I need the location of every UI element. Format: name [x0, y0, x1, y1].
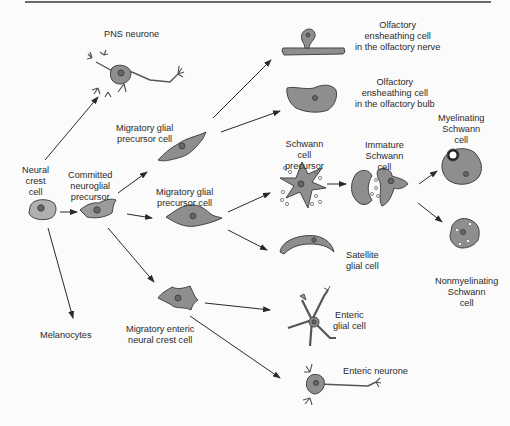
label-myelinating-schwann: Myelinating Schwann cell	[438, 113, 484, 146]
pns-neurone-icon	[87, 50, 184, 97]
arrow-enteric-to-glial	[205, 303, 270, 310]
arrow-committed-to-glial1	[118, 172, 147, 193]
arrow-committed-to-glial2	[127, 214, 152, 218]
arrow-crest-to-pns	[45, 97, 98, 160]
nonmyelinating-schwann-cell-icon	[450, 219, 479, 248]
arrow-glial1-to-olfnerve	[213, 60, 271, 118]
label-enteric-glial: Enteric glial cell	[333, 310, 366, 332]
migratory-enteric-crest-cell-icon	[158, 286, 198, 310]
arrow-enteric-to-neurone	[190, 316, 280, 378]
label-schwann-precursor: Schwann cell precursor	[285, 139, 324, 172]
enteric-glial-cell-icon	[288, 286, 336, 346]
satellite-glial-cell-icon	[280, 236, 334, 254]
label-olfactory-bulb: Olfactory ensheathing cell in the olfact…	[355, 77, 435, 110]
label-satellite-glial: Satellite glial cell	[346, 250, 379, 272]
label-migratory-enteric: Migratory enteric neural crest cell	[126, 324, 194, 346]
arrow-immature-to-myel	[419, 171, 437, 184]
label-migratory-glial-2: Migratory glial precursor cell	[156, 187, 213, 209]
arrow-glial2-to-satellite	[228, 230, 267, 250]
arrow-glial1-to-olfbulb	[221, 111, 280, 132]
myelinating-schwann-cell-icon	[442, 149, 482, 185]
arrow-immature-to-nonmyel	[418, 203, 442, 222]
lineage-diagram	[0, 0, 510, 426]
label-committed-precursor: Committed neuroglial precursor	[68, 170, 112, 203]
immature-schwann-cell-icon	[352, 168, 409, 206]
arrow-glial2-to-schwannprec	[228, 193, 270, 212]
arrow-committed-to-enteric	[108, 228, 154, 282]
neural-crest-cell-icon	[29, 200, 56, 220]
label-nonmyelinating-schwann: Nonmyelinating Schwann cell	[435, 276, 498, 309]
label-melanocytes: Melanocytes	[40, 330, 92, 341]
label-pns-neurone: PNS neurone	[104, 29, 159, 40]
arrow-crest-to-melanocytes	[48, 228, 73, 318]
label-migratory-glial-1: Migratory glial precursor cell	[116, 123, 173, 145]
olfactory-nerve-ensheathing-cell-icon	[282, 29, 345, 55]
olfactory-bulb-ensheathing-cell-icon	[287, 85, 337, 112]
label-olfactory-nerve: Olfactory ensheathing cell in the olfact…	[355, 20, 440, 53]
label-enteric-neurone: Enteric neurone	[343, 366, 408, 377]
label-immature-schwann: Immature Schwann cell	[365, 140, 404, 173]
label-neural-crest-cell: Neural crest cell	[22, 165, 49, 198]
